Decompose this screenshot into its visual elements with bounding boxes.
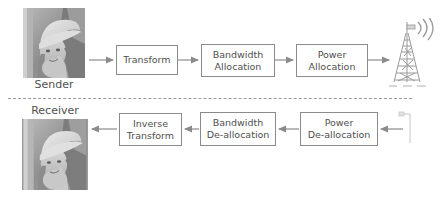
connector-arrows [0, 0, 445, 197]
diagram-canvas: Sender Transform Bandwidth Allocation Po… [0, 0, 445, 197]
